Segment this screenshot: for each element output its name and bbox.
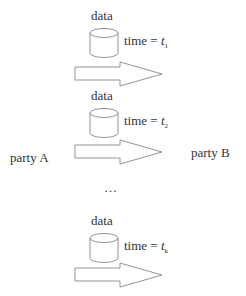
database-icon (90, 234, 118, 263)
transfer-arrow (75, 263, 162, 287)
time-label: time = t2 (124, 113, 168, 130)
data-label: data (91, 8, 113, 24)
database-icon (90, 109, 118, 138)
time-label: time = tk (124, 238, 168, 255)
transfer-arrow (75, 140, 162, 164)
ellipsis: … (104, 180, 117, 196)
data-label: data (91, 213, 113, 229)
time-label: time = t1 (124, 33, 168, 50)
database-icon (90, 29, 118, 58)
party-b-label: party B (191, 145, 230, 161)
transfer-arrow (75, 62, 162, 86)
party-a-label: party A (10, 150, 49, 166)
data-label: data (91, 88, 113, 104)
